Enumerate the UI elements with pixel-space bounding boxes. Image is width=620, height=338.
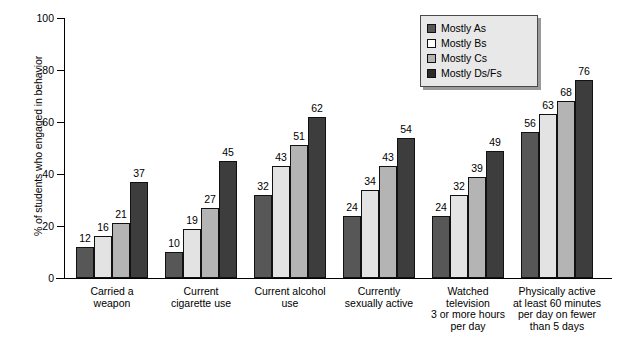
legend-item-label: Mostly Ds/Fs bbox=[441, 68, 502, 79]
bar: 76 bbox=[575, 80, 593, 278]
bar: 12 bbox=[76, 247, 94, 278]
legend-items: Mostly AsMostly BsMostly CsMostly Ds/Fs bbox=[427, 21, 530, 81]
bar: 37 bbox=[130, 182, 148, 278]
bar: 68 bbox=[557, 101, 575, 278]
bar: 62 bbox=[308, 117, 326, 278]
y-axis-tick bbox=[57, 18, 64, 19]
bar: 54 bbox=[397, 138, 415, 278]
bar: 19 bbox=[183, 229, 201, 278]
y-axis-tick-label: 20 bbox=[16, 221, 54, 232]
legend-swatch-icon bbox=[427, 69, 436, 78]
x-axis-line bbox=[56, 278, 612, 279]
bar: 63 bbox=[539, 114, 557, 278]
bar-value-label: 19 bbox=[186, 215, 198, 226]
bar: 56 bbox=[521, 132, 539, 278]
bar-value-label: 24 bbox=[435, 202, 447, 213]
bar-value-label: 24 bbox=[346, 202, 358, 213]
bar-chart: % of students who engaged in behavior 02… bbox=[0, 0, 620, 338]
bar: 10 bbox=[165, 252, 183, 278]
bar-value-label: 12 bbox=[79, 233, 91, 244]
bar: 32 bbox=[254, 195, 272, 278]
y-axis-tick bbox=[57, 122, 64, 123]
bar: 34 bbox=[361, 190, 379, 278]
y-axis-tick-label: 40 bbox=[16, 169, 54, 180]
legend: Mostly AsMostly BsMostly CsMostly Ds/Fs bbox=[420, 15, 538, 87]
y-axis-tick bbox=[57, 174, 64, 175]
bar-value-label: 51 bbox=[293, 131, 305, 142]
bar: 27 bbox=[201, 208, 219, 278]
bar-value-label: 10 bbox=[168, 238, 180, 249]
bar-value-label: 43 bbox=[275, 152, 287, 163]
y-axis-tick bbox=[57, 278, 64, 279]
bar-value-label: 56 bbox=[524, 118, 536, 129]
bar-value-label: 54 bbox=[400, 124, 412, 135]
legend-item-label: Mostly Cs bbox=[441, 53, 487, 64]
bar-group: 10192745 bbox=[165, 18, 237, 278]
bar-value-label: 34 bbox=[364, 176, 376, 187]
y-axis-tick bbox=[57, 70, 64, 71]
bar: 45 bbox=[219, 161, 237, 278]
bar: 24 bbox=[343, 216, 361, 278]
x-axis-category-label: Physically active at least 60 minutes pe… bbox=[497, 286, 617, 332]
bar: 21 bbox=[112, 223, 130, 278]
bar-value-label: 32 bbox=[453, 181, 465, 192]
bar: 32 bbox=[450, 195, 468, 278]
bar-value-label: 27 bbox=[204, 194, 216, 205]
y-axis-title: % of students who engaged in behavior bbox=[32, 16, 44, 276]
bar-value-label: 16 bbox=[97, 222, 109, 233]
bar-value-label: 37 bbox=[133, 168, 145, 179]
legend-swatch-icon bbox=[427, 24, 436, 33]
bar: 51 bbox=[290, 145, 308, 278]
legend-swatch-icon bbox=[427, 54, 436, 63]
bar-value-label: 63 bbox=[542, 100, 554, 111]
legend-item: Mostly As bbox=[427, 21, 530, 36]
legend-item: Mostly Bs bbox=[427, 36, 530, 51]
legend-item: Mostly Ds/Fs bbox=[427, 66, 530, 81]
y-axis-tick-label: 80 bbox=[16, 65, 54, 76]
y-axis-tick-label: 0 bbox=[16, 273, 54, 284]
y-axis-tick bbox=[57, 226, 64, 227]
legend-swatch-icon bbox=[427, 39, 436, 48]
bar-value-label: 43 bbox=[382, 152, 394, 163]
bar: 43 bbox=[379, 166, 397, 278]
bar-value-label: 68 bbox=[560, 87, 572, 98]
bar: 49 bbox=[486, 151, 504, 278]
bar: 43 bbox=[272, 166, 290, 278]
bar-group: 24344354 bbox=[343, 18, 415, 278]
bar-value-label: 45 bbox=[222, 147, 234, 158]
bar-value-label: 76 bbox=[578, 66, 590, 77]
y-axis-tick-label: 100 bbox=[16, 13, 54, 24]
legend-item-label: Mostly As bbox=[441, 23, 486, 34]
bar: 39 bbox=[468, 177, 486, 278]
bar-value-label: 49 bbox=[489, 137, 501, 148]
legend-item-label: Mostly Bs bbox=[441, 38, 487, 49]
bar: 24 bbox=[432, 216, 450, 278]
bar-group: 32435162 bbox=[254, 18, 326, 278]
bar-value-label: 32 bbox=[257, 181, 269, 192]
bar-value-label: 39 bbox=[471, 163, 483, 174]
bar-value-label: 21 bbox=[115, 209, 127, 220]
bar-group: 12162137 bbox=[76, 18, 148, 278]
y-axis-tick-label: 60 bbox=[16, 117, 54, 128]
bar-value-label: 62 bbox=[311, 103, 323, 114]
legend-item: Mostly Cs bbox=[427, 51, 530, 66]
bar: 16 bbox=[94, 236, 112, 278]
